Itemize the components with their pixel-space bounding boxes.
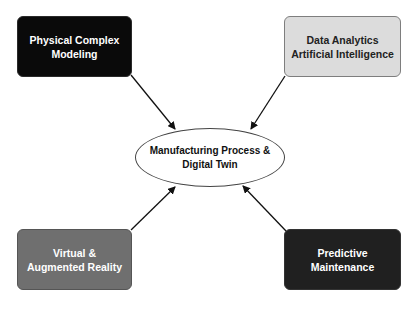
arrow-top-right-to-center xyxy=(251,76,285,129)
node-virtual-augmented-reality: Virtual & Augmented Reality xyxy=(17,229,132,290)
node-label-line2: Maintenance xyxy=(311,260,375,274)
node-predictive-maintenance: Predictive Maintenance xyxy=(284,229,401,290)
node-label-line2: Modeling xyxy=(51,47,97,61)
node-physical-complex-modeling: Physical Complex Modeling xyxy=(17,16,132,77)
center-ellipse-manufacturing-digital-twin: Manufacturing Process & Digital Twin xyxy=(135,128,285,187)
node-label-line1: Physical Complex xyxy=(30,33,120,47)
node-label-line1: Predictive xyxy=(317,246,367,260)
center-label-line1: Manufacturing Process & xyxy=(150,144,271,158)
center-label-line2: Digital Twin xyxy=(182,158,237,172)
arrow-bottom-right-to-center xyxy=(243,186,286,231)
arrow-bottom-left-to-center xyxy=(131,187,175,230)
node-label-line2: Augmented Reality xyxy=(27,260,122,274)
node-label-line1: Virtual & xyxy=(53,246,96,260)
node-data-analytics-ai: Data Analytics Artificial Intelligence xyxy=(284,16,401,77)
node-label-line1: Data Analytics xyxy=(307,33,379,47)
node-label-line2: Artificial Intelligence xyxy=(291,47,394,61)
arrow-top-left-to-center xyxy=(131,75,175,129)
